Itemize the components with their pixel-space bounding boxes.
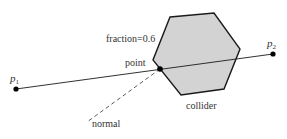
fraction-label: fraction=0.6: [106, 34, 155, 44]
collider-hexagon: [153, 13, 240, 95]
point-label: point: [125, 58, 146, 68]
p2-label-subscript: 2: [273, 43, 277, 51]
normal-label: normal: [92, 119, 120, 129]
p1-point-marker: [13, 86, 18, 91]
p1-label-subscript: 1: [16, 78, 20, 86]
normal-vector-dashed: [87, 69, 160, 122]
p2-label: p2: [267, 38, 276, 51]
p2-point-marker: [270, 51, 275, 56]
raycast-diagram: [0, 0, 287, 139]
collider-label: collider: [186, 101, 217, 111]
hit-point-marker: [157, 66, 163, 72]
p1-label: p1: [10, 73, 19, 86]
